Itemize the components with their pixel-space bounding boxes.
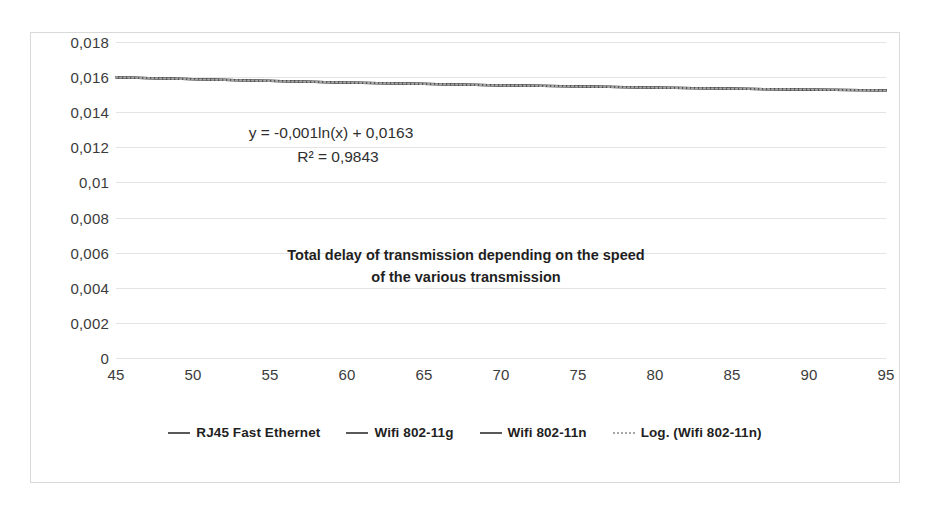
chart-title: Total delay of transmission depending on… — [241, 245, 691, 289]
y-axis: 00,0020,0040,0060,0080,010,0120,0140,016… — [31, 42, 109, 358]
chart-title-line-1: Total delay of transmission depending on… — [241, 245, 691, 267]
x-tick-label: 50 — [184, 366, 201, 383]
legend-item[interactable]: RJ45 Fast Ethernet — [168, 425, 320, 440]
y-tick-label: 0,004 — [70, 279, 109, 296]
chart-legend: RJ45 Fast EthernetWifi 802-11gWifi 802-1… — [31, 425, 899, 440]
x-tick-label: 95 — [877, 366, 894, 383]
y-tick-label: 0,012 — [70, 139, 109, 156]
y-tick-label: 0,014 — [70, 104, 109, 121]
x-axis: 4550556065707580859095 — [116, 366, 886, 390]
y-tick-label: 0,002 — [70, 314, 109, 331]
x-tick-label: 70 — [492, 366, 509, 383]
chart-title-line-2: of the various transmission — [241, 267, 691, 289]
legend-label: Log. (Wifi 802-11n) — [641, 425, 762, 440]
y-tick-label: 0,016 — [70, 69, 109, 86]
plot-area — [116, 42, 886, 358]
legend-label: Wifi 802-11g — [374, 425, 453, 440]
series-lines — [116, 42, 886, 358]
x-tick-label: 80 — [646, 366, 663, 383]
y-tick-label: 0 — [100, 350, 109, 367]
legend-label: RJ45 Fast Ethernet — [196, 425, 320, 440]
x-tick-label: 75 — [569, 366, 586, 383]
gridline-horizontal — [116, 358, 886, 359]
y-tick-label: 0,008 — [70, 209, 109, 226]
trendline-annotation: y = -0,001ln(x) + 0,0163 R² = 0,9843 — [171, 121, 491, 169]
y-tick-label: 0,018 — [70, 34, 109, 51]
solid-line-icon — [480, 432, 502, 434]
x-tick-label: 65 — [415, 366, 432, 383]
trendline-equation-text: y = -0,001ln(x) + 0,0163 — [171, 121, 491, 145]
x-tick-label: 60 — [338, 366, 355, 383]
x-tick-label: 90 — [800, 366, 817, 383]
chart-frame: 00,0020,0040,0060,0080,010,0120,0140,016… — [30, 32, 900, 483]
x-tick-label: 45 — [107, 366, 124, 383]
legend-item[interactable]: Wifi 802-11g — [346, 425, 453, 440]
legend-label: Wifi 802-11n — [508, 425, 587, 440]
x-tick-label: 55 — [261, 366, 278, 383]
trendline-r2-text: R² = 0,9843 — [171, 145, 491, 169]
y-tick-label: 0,006 — [70, 244, 109, 261]
solid-line-icon — [168, 432, 190, 434]
solid-line-icon — [346, 432, 368, 434]
dotted-line-icon — [613, 432, 635, 434]
x-tick-label: 85 — [723, 366, 740, 383]
legend-item[interactable]: Log. (Wifi 802-11n) — [613, 425, 762, 440]
y-tick-label: 0,01 — [79, 174, 109, 191]
legend-item[interactable]: Wifi 802-11n — [480, 425, 587, 440]
